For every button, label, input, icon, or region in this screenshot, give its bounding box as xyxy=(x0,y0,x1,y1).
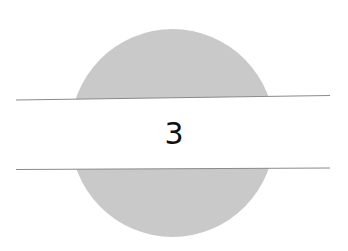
figure-canvas: 3 xyxy=(0,0,348,251)
number-label: 3 xyxy=(0,117,348,151)
